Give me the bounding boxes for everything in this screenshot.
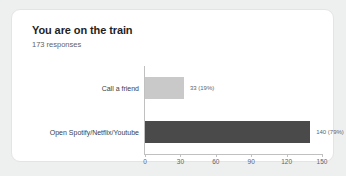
tick-mark	[251, 154, 252, 157]
tick-mark	[216, 154, 217, 157]
response-count: 173 responses	[32, 40, 132, 49]
tick-mark	[322, 154, 323, 157]
chart-card: You are on the train 173 responses Call …	[11, 9, 334, 162]
tick-mark	[180, 154, 181, 157]
tick-label: 60	[212, 158, 219, 165]
tick-label: 120	[281, 158, 292, 165]
bar-row: Call a friend 33 (19%)	[12, 66, 335, 110]
bar-open-streaming[interactable]	[145, 121, 310, 143]
bar-value-label: 33 (19%)	[190, 85, 214, 91]
bar-chart: Call a friend 33 (19%) Open Spotify/Netf…	[12, 56, 335, 161]
tick-label: 0	[143, 158, 147, 165]
bar-call-a-friend[interactable]	[145, 77, 184, 99]
page-title: You are on the train	[32, 24, 132, 36]
tick-label: 150	[317, 158, 328, 165]
category-label: Open Spotify/Netflix/Youtube	[50, 129, 139, 136]
category-label: Call a friend	[102, 85, 139, 92]
tick-mark	[145, 154, 146, 157]
chart-header: You are on the train 173 responses	[32, 24, 132, 49]
bar-row: Open Spotify/Netflix/Youtube 140 (79%)	[12, 110, 335, 154]
tick-label: 30	[177, 158, 184, 165]
bar-value-label: 140 (79%)	[316, 129, 344, 135]
x-axis-ticks: 0306090120150	[12, 154, 335, 168]
tick-label: 90	[248, 158, 255, 165]
tick-mark	[287, 154, 288, 157]
